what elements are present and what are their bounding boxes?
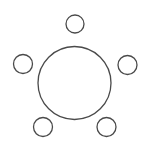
seat-bottom-left-circle (34, 118, 53, 137)
seat-left-circle (14, 55, 33, 74)
table-seating-diagram (0, 0, 147, 155)
seat-bottom-right-circle (97, 118, 116, 137)
seat-top-circle (66, 15, 84, 33)
seat-right-circle (118, 56, 137, 75)
table-circle (38, 47, 111, 120)
